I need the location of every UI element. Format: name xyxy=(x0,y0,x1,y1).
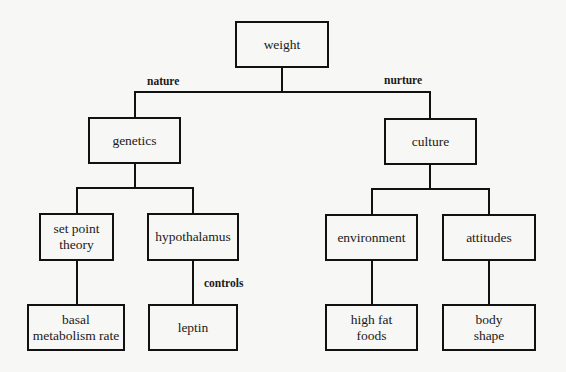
node-attitudes: attitudes xyxy=(442,214,536,261)
connector-hypothalamus-to-leptin xyxy=(192,260,194,305)
node-environment: environment xyxy=(325,214,418,261)
connector-weight-stem xyxy=(281,67,283,93)
connector-genetics-stem xyxy=(134,163,136,189)
connector-attitudes-to-body-shape xyxy=(488,260,490,305)
connector-culture-stem xyxy=(429,164,431,189)
connector-set-point-to-basal xyxy=(76,260,78,305)
node-basal-metabolism-rate: basal metabolism rate xyxy=(27,304,125,351)
edge-label-controls: controls xyxy=(204,277,243,289)
node-hypothalamus: hypothalamus xyxy=(147,213,239,261)
connector-to-culture xyxy=(429,91,431,118)
connector-environment-to-foods xyxy=(371,260,373,305)
node-set-point-theory: set point theory xyxy=(39,213,114,261)
node-weight: weight xyxy=(235,21,329,68)
connector-main-horizontal xyxy=(134,91,431,93)
connector-to-attitudes xyxy=(488,188,490,215)
node-genetics: genetics xyxy=(88,117,181,164)
node-culture: culture xyxy=(384,118,477,165)
connector-to-set-point xyxy=(76,187,78,214)
node-body-shape: body shape xyxy=(442,304,536,351)
edge-label-nature: nature xyxy=(147,75,179,87)
edge-label-nurture: nurture xyxy=(384,74,422,86)
node-high-fat-foods: high fat foods xyxy=(325,304,418,351)
connector-to-hypothalamus xyxy=(192,187,194,214)
connector-genetics-horizontal xyxy=(76,187,194,189)
connector-to-environment xyxy=(371,188,373,215)
node-leptin: leptin xyxy=(148,304,238,351)
connector-to-genetics xyxy=(134,91,136,118)
connector-culture-horizontal xyxy=(371,188,490,190)
